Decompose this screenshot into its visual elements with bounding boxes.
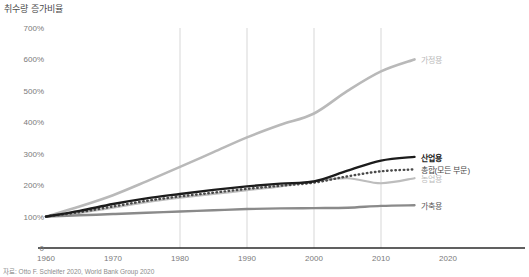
- x-tick-2010: 2010: [372, 254, 390, 263]
- series-label-가정용: 가정용: [421, 54, 442, 65]
- x-tick-1980: 1980: [171, 254, 189, 263]
- x-tick-2020: 2020: [439, 254, 457, 263]
- series-label-산업용: 산업용: [421, 151, 442, 162]
- chart-title: 취수량 증가비율: [4, 2, 63, 15]
- y-tick-600%: 600%: [0, 55, 44, 64]
- y-tick-0: 0: [0, 244, 44, 253]
- gridline-group: [180, 28, 381, 248]
- y-tick-500%: 500%: [0, 86, 44, 95]
- y-tick-700%: 700%: [0, 24, 44, 33]
- chart-container: 취수량 증가비율 0100%200%300%400%500%600%700% 1…: [0, 0, 529, 277]
- x-tick-1990: 1990: [238, 254, 256, 263]
- y-tick-400%: 400%: [0, 118, 44, 127]
- x-tick-2000: 2000: [305, 254, 323, 263]
- y-tick-100%: 100%: [0, 212, 44, 221]
- y-tick-300%: 300%: [0, 149, 44, 158]
- chart-plot-area: [0, 0, 529, 277]
- series-label-가축용: 가축용: [421, 200, 442, 211]
- series-label-농업용: 농업용: [421, 173, 442, 184]
- y-tick-200%: 200%: [0, 181, 44, 190]
- series-line-group: [46, 59, 415, 216]
- x-tick-1960: 1960: [37, 254, 55, 263]
- source-note: 자료: Otto F. Schleifer 2020, World Bank G…: [3, 266, 154, 276]
- x-tick-1970: 1970: [104, 254, 122, 263]
